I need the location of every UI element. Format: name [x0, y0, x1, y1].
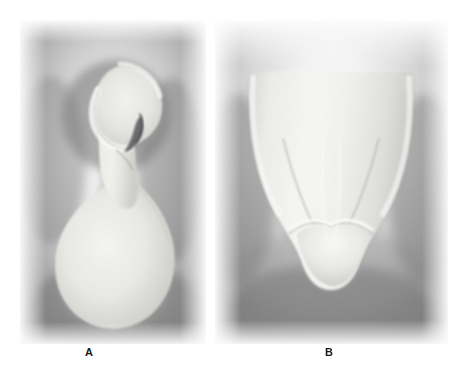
- panel-a-label: A: [79, 346, 99, 358]
- radiograph-figure: A B: [0, 0, 467, 372]
- panel-a-image: [20, 20, 206, 344]
- panel-a-film-grain: [20, 20, 206, 344]
- panel-b-image: [215, 20, 448, 344]
- radiograph-panel-a: [20, 20, 206, 344]
- panel-b-film-grain: [215, 20, 448, 344]
- radiograph-panel-b: [215, 20, 448, 344]
- panel-b-label: B: [319, 346, 339, 358]
